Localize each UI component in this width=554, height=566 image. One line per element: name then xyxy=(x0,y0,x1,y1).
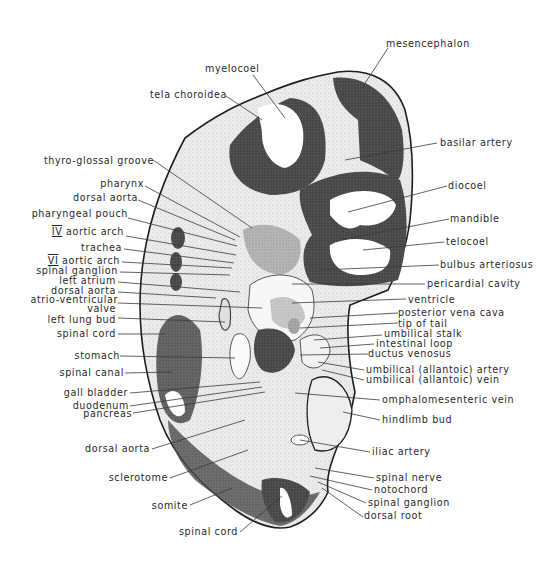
label-dorsal-root: dorsal root xyxy=(364,510,422,521)
embryo-section-figure: mesencephalon myelocoel tela choroidea t… xyxy=(0,0,554,566)
label-dorsal-aorta-upper: dorsal aorta xyxy=(73,192,138,203)
label-pancreas: pancreas xyxy=(83,408,132,419)
label-tela-choroidea: tela choroidea xyxy=(150,89,227,100)
label-myelocoel: myelocoel xyxy=(205,63,260,74)
label-bulbus-arteriosus: bulbus arteriosus xyxy=(440,259,533,270)
label-iv-aortic-arch: IV aortic arch xyxy=(52,226,124,237)
left-lung-bud xyxy=(219,299,231,330)
label-spinal-nerve: spinal nerve xyxy=(376,472,442,483)
label-diocoel: diocoel xyxy=(448,180,487,191)
label-umbilical-allantoic-vein: umbilical (allantoic) vein xyxy=(366,374,500,385)
label-dorsal-aorta-lower: dorsal aorta xyxy=(85,443,150,454)
tip-of-tail xyxy=(288,318,300,334)
ganglion-3 xyxy=(170,273,182,291)
label-ductus-venosus: ductus venosus xyxy=(368,348,451,359)
label-pericardial-cavity: pericardial cavity xyxy=(427,278,521,289)
label-pharynx: pharynx xyxy=(100,178,144,189)
label-telocoel: telocoel xyxy=(446,236,489,247)
label-spinal-cord-lower: spinal cord xyxy=(179,526,238,537)
label-valve: valve xyxy=(87,303,116,314)
aortic-arch-text: aortic arch xyxy=(66,226,124,237)
label-ventricle: ventricle xyxy=(408,294,455,305)
label-gall-bladder: gall bladder xyxy=(64,387,128,398)
label-stomach: stomach xyxy=(75,350,120,361)
label-thyro-glossal-groove: thyro-glossal groove xyxy=(44,155,154,166)
label-iliac-artery: iliac artery xyxy=(372,446,431,457)
label-omphalomesenteric-vein: omphalomesenteric vein xyxy=(382,394,514,405)
label-hindlimb-bud: hindlimb bud xyxy=(382,414,452,425)
label-left-lung-bud: left lung bud xyxy=(47,314,116,325)
label-mandible: mandible xyxy=(450,213,500,224)
label-notochord: notochord xyxy=(374,484,428,495)
label-trachea: trachea xyxy=(81,242,122,253)
roman-numeral-iv: IV xyxy=(52,226,63,237)
label-basilar-artery: basilar artery xyxy=(440,137,513,148)
label-mesencephalon: mesencephalon xyxy=(386,38,470,49)
label-posterior-vena-cava: posterior vena cava xyxy=(398,307,505,318)
label-somite: somite xyxy=(152,500,188,511)
label-pharyngeal-pouch: pharyngeal pouch xyxy=(32,208,128,219)
label-spinal-ganglion-lower: spinal ganglion xyxy=(368,497,450,508)
label-spinal-canal: spinal canal xyxy=(60,367,124,378)
label-sclerotome: sclerotome xyxy=(109,472,168,483)
label-spinal-cord-upper: spinal cord xyxy=(57,328,116,339)
